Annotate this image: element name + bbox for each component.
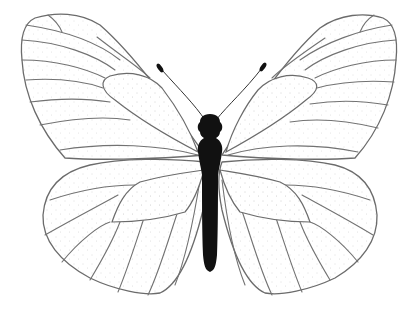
right-hindwing [219,159,377,295]
butterfly-illustration: butterfly [0,0,418,313]
right-forewing [222,15,397,159]
left-hindwing [43,159,206,295]
